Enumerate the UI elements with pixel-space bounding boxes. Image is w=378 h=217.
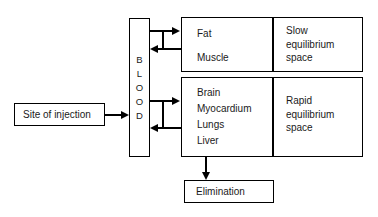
edge-blood-to-slow-arrow xyxy=(172,27,180,35)
node-slow-tissue-fat: Fat xyxy=(197,27,211,41)
node-site-of-injection-label: Site of injection xyxy=(23,109,91,121)
blood-letter-l: L xyxy=(129,67,150,81)
blood-letter-b: B xyxy=(129,53,150,67)
node-rapid-tissue-liver: Liver xyxy=(197,134,219,148)
blood-letter-o1: O xyxy=(129,81,150,95)
node-rapid-space-line2: equilibrium xyxy=(286,108,334,122)
edge-blood-to-rapid-line xyxy=(150,100,173,102)
edge-slow-to-blood-arrow xyxy=(150,45,158,53)
edge-rapid-to-elimination-arrow xyxy=(202,172,210,180)
node-rapid-compartment-divider xyxy=(272,77,274,157)
edge-blood-to-slow-line xyxy=(150,30,173,32)
node-slow-tissue-muscle: Muscle xyxy=(197,51,229,65)
node-elimination-label: Elimination xyxy=(196,186,245,198)
edge-blood-to-slow-stub xyxy=(162,30,164,48)
edge-slow-to-blood-line xyxy=(158,48,181,50)
diagram-canvas: Site of injection B L O O D Fat Muscle S… xyxy=(0,0,378,217)
node-slow-space-line2: equilibrium xyxy=(286,38,334,52)
edge-blood-to-rapid-arrow xyxy=(172,97,180,105)
blood-letter-o2: O xyxy=(129,95,150,109)
edge-blood-to-rapid-stub xyxy=(162,100,164,127)
node-rapid-tissue-lungs: Lungs xyxy=(197,118,224,132)
node-rapid-space-line3: space xyxy=(286,121,313,135)
node-rapid-tissue-myocardium: Myocardium xyxy=(197,102,251,116)
blood-letter-d: D xyxy=(129,109,150,123)
node-rapid-tissue-brain: Brain xyxy=(197,86,220,100)
edge-rapid-to-blood-line xyxy=(158,127,181,129)
node-slow-compartment-divider xyxy=(272,17,274,72)
node-slow-space-line1: Slow xyxy=(286,24,308,38)
node-rapid-space-line1: Rapid xyxy=(286,94,312,108)
node-slow-space-line3: space xyxy=(286,51,313,65)
node-blood-label: B L O O D xyxy=(129,53,150,123)
edge-rapid-to-blood-arrow xyxy=(150,124,158,132)
edge-injection-to-blood-arrow xyxy=(121,111,129,119)
